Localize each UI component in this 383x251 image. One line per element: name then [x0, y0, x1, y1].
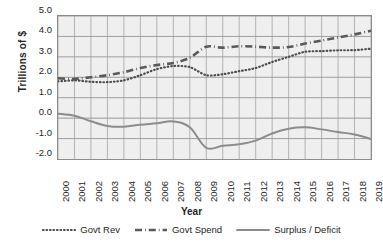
x-tick-label: 2012 — [259, 181, 269, 202]
x-axis-tick-labels: 2000200120022003200420052006200720082009… — [57, 162, 372, 208]
y-tick-label: 1.0 — [24, 87, 52, 97]
y-tick-label: 2.0 — [24, 66, 52, 76]
legend-label: Surplus / Deficit — [274, 224, 341, 235]
legend-entry[interactable]: Govt Spend — [134, 224, 222, 235]
legend-entry[interactable]: Govt Rev — [42, 224, 120, 235]
series-line-1 — [58, 31, 371, 79]
x-tick-label: 2017 — [341, 181, 351, 202]
x-tick-label: 2008 — [193, 181, 203, 202]
y-tick-label: 4.0 — [24, 25, 52, 35]
x-tick-label: 2013 — [275, 181, 285, 202]
x-tick-label: 2018 — [358, 181, 368, 202]
legend-label: Govt Spend — [172, 224, 222, 235]
x-tick-label: 2006 — [160, 181, 170, 202]
x-tick-label: 2004 — [127, 181, 137, 202]
x-tick-label: 2011 — [242, 182, 252, 202]
y-tick-label: 0.0 — [24, 107, 52, 117]
legend-entry[interactable]: Surplus / Deficit — [236, 224, 341, 235]
x-tick-label: 2002 — [94, 181, 104, 202]
x-tick-label: 2015 — [308, 181, 318, 202]
legend-label: Govt Rev — [80, 224, 120, 235]
x-tick-label: 2003 — [110, 181, 120, 202]
x-tick-label: 2001 — [77, 181, 87, 202]
x-tick-label: 2014 — [292, 181, 302, 202]
legend-swatch-dotted-icon — [42, 226, 76, 234]
chart-container: Trillions of $ 5.04.03.02.01.00.0-1.0-2.… — [0, 0, 383, 251]
legend-swatch-dash-dot-icon — [134, 226, 168, 234]
series-line-2 — [58, 114, 371, 149]
y-tick-label: 3.0 — [24, 46, 52, 56]
x-tick-label: 2019 — [374, 181, 383, 202]
plot-area — [57, 15, 372, 160]
x-tick-label: 2000 — [61, 181, 71, 202]
y-tick-label: -1.0 — [24, 128, 52, 138]
x-tick-label: 2010 — [226, 181, 236, 202]
x-tick-label: 2016 — [325, 181, 335, 202]
x-axis-title: Year — [0, 206, 383, 217]
x-tick-label: 2007 — [176, 181, 186, 202]
x-tick-label: 2009 — [209, 181, 219, 202]
y-axis-tick-labels: 5.04.03.02.01.00.0-1.0-2.0 — [24, 10, 52, 160]
y-tick-label: 5.0 — [24, 5, 52, 15]
x-tick-label: 2005 — [143, 181, 153, 202]
legend-swatch-solid-icon — [236, 226, 270, 234]
plot-svg — [58, 16, 371, 159]
y-tick-label: -2.0 — [24, 148, 52, 158]
chart-legend: Govt RevGovt SpendSurplus / Deficit — [0, 224, 383, 235]
